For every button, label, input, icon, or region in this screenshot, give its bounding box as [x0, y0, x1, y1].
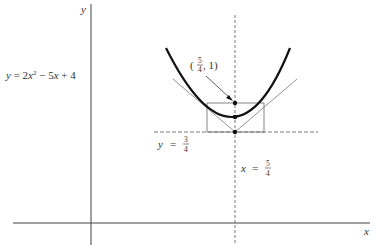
svg-text:, 1): , 1) — [203, 59, 218, 72]
right-tangent-line — [235, 79, 297, 132]
svg-text:=: = — [252, 162, 258, 174]
equation-label: y = 2x2 − 5x + 4 — [5, 69, 76, 81]
parabola-diagram: y x y = 2x2 − 5x + 4 ( 5 4 , 1) y = 3 4 … — [0, 0, 374, 245]
svg-text:y: y — [157, 138, 163, 150]
axis-of-symmetry-label: x = 5 4 — [240, 159, 271, 178]
directrix-label: y = 3 4 — [157, 135, 189, 154]
svg-text:(: ( — [190, 59, 194, 72]
x-axis-label: x — [363, 225, 369, 237]
focus-point-label: ( 5 4 , 1) — [190, 56, 218, 74]
svg-text:5: 5 — [198, 56, 202, 65]
directrix-point — [233, 130, 237, 134]
svg-text:4: 4 — [198, 65, 202, 74]
svg-text:3: 3 — [184, 135, 188, 144]
y-axis-label: y — [80, 3, 86, 15]
vertex-point — [233, 115, 237, 119]
svg-text:=: = — [170, 138, 176, 150]
focus-point — [233, 101, 237, 105]
svg-text:4: 4 — [266, 169, 270, 178]
svg-text:5: 5 — [266, 159, 270, 168]
svg-text:4: 4 — [184, 145, 188, 154]
focus-arrow — [206, 76, 231, 99]
parabola-curve — [166, 48, 290, 117]
svg-text:x: x — [240, 162, 246, 174]
